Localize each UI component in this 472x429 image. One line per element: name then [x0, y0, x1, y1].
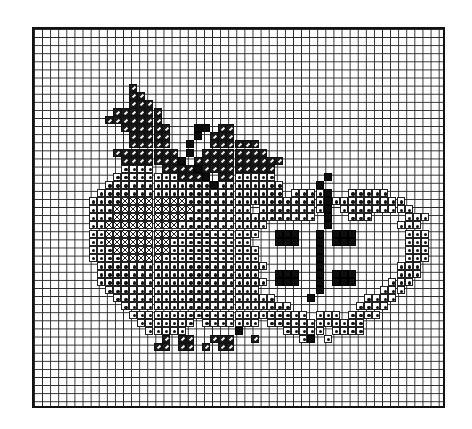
dotted-stitch	[105, 189, 113, 197]
dotted-stitch	[405, 246, 413, 254]
dotted-stitch	[162, 286, 170, 294]
dotted-stitch	[356, 205, 364, 213]
dotted-stitch	[202, 205, 210, 213]
dotted-stitch	[348, 189, 356, 197]
leaf-stitch	[113, 108, 121, 116]
dotted-stitch	[235, 286, 243, 294]
crosshatch-stitch	[121, 238, 129, 246]
dotted-stitch	[316, 311, 324, 319]
crosshatch-stitch	[113, 246, 121, 254]
dotted-stitch	[243, 311, 251, 319]
dotted-stitch	[186, 262, 194, 270]
crosshatch-stitch	[162, 246, 170, 254]
leaf-stitch	[210, 165, 218, 173]
leaf-stitch	[243, 165, 251, 173]
leaf-stitch	[186, 173, 194, 181]
leaf-stitch	[226, 343, 234, 351]
solid-stitch	[194, 132, 202, 140]
dotted-stitch	[413, 238, 421, 246]
leaf-stitch	[154, 132, 162, 140]
leaf-stitch	[194, 173, 202, 181]
crosshatch-stitch	[137, 205, 145, 213]
dotted-stitch	[178, 286, 186, 294]
dotted-stitch	[89, 205, 97, 213]
dotted-stitch	[267, 197, 275, 205]
dotted-stitch	[243, 189, 251, 197]
dotted-stitch	[154, 311, 162, 319]
leaf-stitch	[202, 157, 210, 165]
dotted-stitch	[162, 319, 170, 327]
dotted-stitch	[105, 246, 113, 254]
crosshatch-stitch	[145, 221, 153, 229]
dotted-stitch	[194, 181, 202, 189]
dotted-stitch	[218, 213, 226, 221]
dotted-stitch	[259, 278, 267, 286]
dotted-stitch	[178, 278, 186, 286]
dotted-stitch	[340, 319, 348, 327]
solid-stitch	[275, 270, 283, 278]
dotted-stitch	[210, 286, 218, 294]
dotted-stitch	[259, 173, 267, 181]
crosshatch-stitch	[145, 238, 153, 246]
dotted-stitch	[380, 294, 388, 302]
leaf-stitch	[259, 149, 267, 157]
dotted-stitch	[218, 189, 226, 197]
dotted-stitch	[259, 213, 267, 221]
solid-stitch	[332, 230, 340, 238]
dotted-stitch	[145, 262, 153, 270]
crosshatch-stitch	[105, 221, 113, 229]
dotted-stitch	[89, 197, 97, 205]
dotted-stitch	[194, 262, 202, 270]
leaf-stitch	[243, 140, 251, 148]
dotted-stitch	[97, 197, 105, 205]
dotted-stitch	[316, 197, 324, 205]
dotted-stitch	[226, 319, 234, 327]
dotted-stitch	[307, 197, 315, 205]
dotted-stitch	[194, 270, 202, 278]
dotted-stitch	[202, 246, 210, 254]
leaf-stitch	[202, 343, 210, 351]
dotted-stitch	[388, 286, 396, 294]
leaf-stitch	[137, 157, 145, 165]
solid-stitch	[202, 124, 210, 132]
solid-stitch	[291, 230, 299, 238]
dotted-stitch	[202, 230, 210, 238]
dotted-stitch	[170, 286, 178, 294]
dotted-stitch	[235, 205, 243, 213]
dotted-stitch	[243, 205, 251, 213]
dotted-stitch	[154, 286, 162, 294]
crosshatch-stitch	[154, 221, 162, 229]
crosshatch-stitch	[121, 254, 129, 262]
dotted-stitch	[210, 254, 218, 262]
dotted-stitch	[380, 197, 388, 205]
dotted-stitch	[275, 205, 283, 213]
leaf-stitch	[235, 149, 243, 157]
dotted-stitch	[251, 286, 259, 294]
dotted-stitch	[388, 205, 396, 213]
dotted-stitch	[202, 270, 210, 278]
dotted-stitch	[235, 238, 243, 246]
dotted-stitch	[218, 230, 226, 238]
dotted-stitch	[243, 221, 251, 229]
dotted-stitch	[170, 311, 178, 319]
dotted-stitch	[178, 294, 186, 302]
dotted-stitch	[137, 189, 145, 197]
dotted-stitch	[210, 319, 218, 327]
leaf-stitch	[186, 343, 194, 351]
dotted-stitch	[291, 205, 299, 213]
solid-stitch	[275, 278, 283, 286]
dotted-stitch	[113, 294, 121, 302]
leaf-stitch	[137, 116, 145, 124]
dotted-stitch	[332, 311, 340, 319]
dotted-stitch	[202, 221, 210, 229]
dotted-stitch	[275, 311, 283, 319]
solid-stitch	[202, 173, 210, 181]
dotted-stitch	[283, 311, 291, 319]
dotted-stitch	[356, 319, 364, 327]
dotted-stitch	[170, 238, 178, 246]
dotted-stitch	[405, 254, 413, 262]
crosshatch-stitch	[162, 221, 170, 229]
dotted-stitch	[235, 213, 243, 221]
solid-stitch	[324, 213, 332, 221]
dotted-stitch	[162, 294, 170, 302]
